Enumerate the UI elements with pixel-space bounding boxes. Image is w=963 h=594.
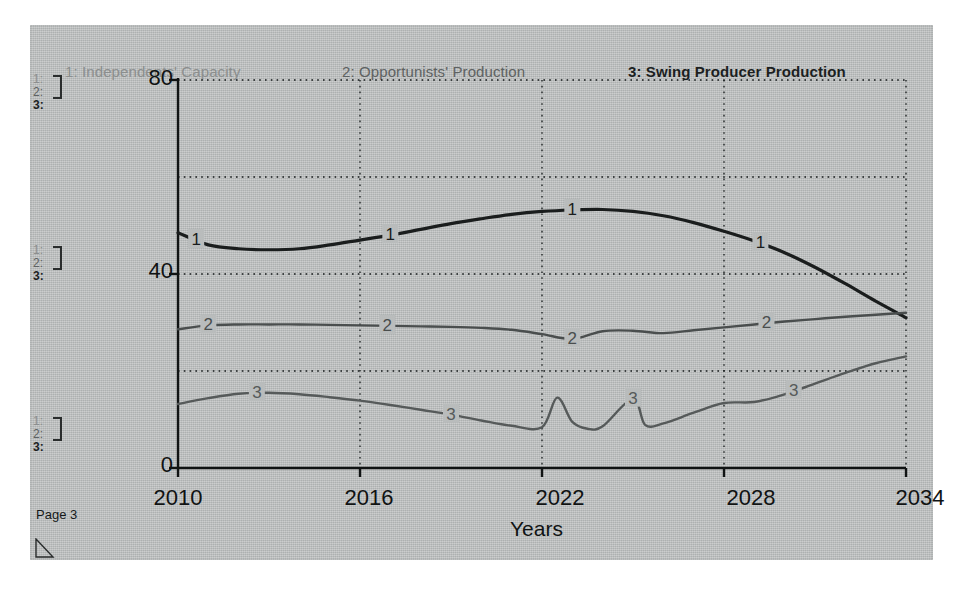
series-marker-3: 3: [443, 404, 459, 424]
marker-label: 2: [762, 313, 771, 332]
page-label: Page 3: [36, 507, 77, 522]
x-tick-2028: 2028: [706, 485, 796, 511]
marker-label: 3: [789, 381, 798, 400]
series-line-2: [178, 313, 906, 339]
series-marker-2: 2: [379, 315, 395, 335]
marker-label: 2: [568, 329, 577, 348]
marker-label: 3: [446, 405, 455, 424]
marker-label: 1: [756, 233, 765, 252]
marker-label: 3: [252, 383, 261, 402]
x-tick-2022: 2022: [515, 485, 605, 511]
marker-label: 1: [568, 200, 577, 219]
x-tick-2010: 2010: [133, 485, 223, 511]
series-marker-1: 1: [382, 224, 398, 244]
series-marker-2: 2: [200, 314, 216, 334]
series-marker-3: 3: [786, 380, 802, 400]
y-tick-0: 0: [125, 452, 173, 478]
series-marker-3: 3: [625, 388, 641, 408]
y-tick-80: 80: [125, 65, 173, 91]
marker-label: 2: [204, 315, 213, 334]
series-marker-3: 3: [249, 382, 265, 402]
series-marker-2: 2: [758, 312, 774, 332]
resize-handle-icon[interactable]: [35, 538, 55, 558]
series-marker-2: 2: [564, 328, 580, 348]
series-marker-1: 1: [752, 232, 768, 252]
series-marker-1: 1: [564, 199, 580, 219]
series-marker-1: 1: [188, 229, 204, 249]
graph-window: 1: Independents' Capacity 2: Opportunist…: [30, 25, 933, 560]
marker-label: 1: [191, 230, 200, 249]
x-tick-2034: 2034: [875, 485, 963, 511]
line-chart: 111122223333: [30, 25, 933, 560]
marker-label: 2: [383, 316, 392, 335]
y-tick-40: 40: [125, 258, 173, 284]
x-axis-title: Years: [30, 517, 933, 541]
marker-label: 1: [386, 225, 395, 244]
marker-label: 3: [628, 389, 637, 408]
x-tick-2016: 2016: [324, 485, 414, 511]
